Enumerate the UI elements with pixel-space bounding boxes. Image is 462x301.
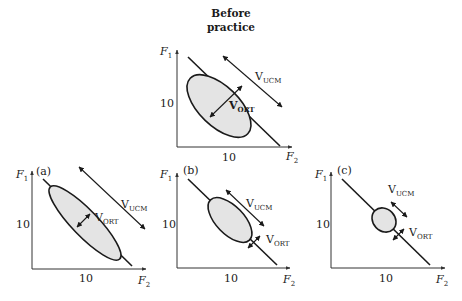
- x-tick-10: 10: [79, 272, 93, 285]
- v-ucm-label: VUCM: [120, 198, 147, 213]
- v-ucm-label: VUCM: [254, 70, 281, 85]
- x-axis-label: F2: [285, 150, 298, 165]
- title-line-2: practice: [207, 21, 255, 33]
- y-axis-label: F1: [159, 45, 172, 60]
- v-ucm-label: VUCM: [245, 197, 272, 212]
- x-tick-10: 10: [379, 272, 393, 285]
- panel-tag: (a): [36, 165, 51, 178]
- panel-b: (b) F1 F2 10 10 VUCM VORT: [159, 164, 295, 288]
- v-ort-label: VORT: [265, 233, 290, 248]
- y-tick-10: 10: [162, 218, 176, 231]
- v-ucm-label: VUCM: [387, 183, 414, 198]
- x-axis-label: F2: [435, 273, 448, 288]
- x-tick-10: 10: [224, 272, 238, 285]
- panel-tag: (c): [337, 164, 352, 177]
- x-axis-label: F2: [137, 274, 150, 289]
- panel-c: (c) F1 F2 10 10 VUCM VORT: [314, 164, 448, 288]
- y-tick-10: 10: [16, 218, 30, 231]
- y-axis-label: F1: [15, 168, 28, 183]
- ucm-diagram: Before practice F1 F2 10 10 VUCM VORT (a…: [0, 0, 462, 301]
- panel-before-practice: F1 F2 10 10 VUCM VORT: [159, 45, 298, 165]
- panel-a: (a) F1 F2 10 10 VUCM VORT: [15, 165, 150, 289]
- y-axis-label: F1: [159, 168, 172, 183]
- v-ort-label: VORT: [408, 226, 433, 241]
- y-tick-10: 10: [316, 218, 330, 231]
- y-tick-10: 10: [160, 97, 174, 110]
- v-ort-label: VORT: [94, 211, 119, 226]
- title-line-1: Before: [211, 7, 251, 19]
- x-tick-10: 10: [222, 151, 236, 164]
- x-axis-label: F2: [282, 273, 295, 288]
- panel-tag: (b): [183, 164, 199, 177]
- y-axis-label: F1: [314, 168, 327, 183]
